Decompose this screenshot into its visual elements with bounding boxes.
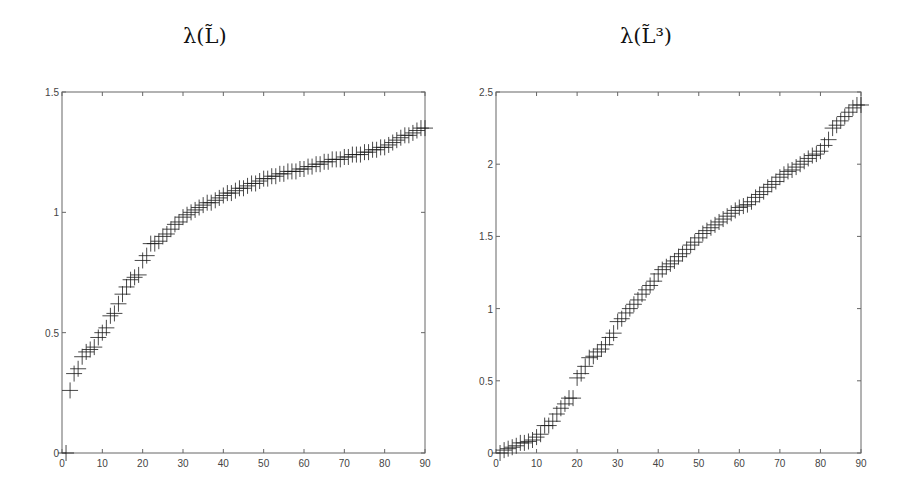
x-tick-label: 0 [59,458,65,469]
x-tick-label: 50 [693,458,705,469]
x-tick-label: 30 [177,458,189,469]
data-series-markers [492,97,869,461]
x-tick-label: 60 [298,458,310,469]
x-tick-label: 80 [815,458,827,469]
y-tick-label: 0.5 [45,328,59,339]
x-tick-label: 40 [218,458,230,469]
y-tick-label: 1 [53,207,59,218]
y-tick-label: 2 [487,159,493,170]
chart-right-plot: 010203040506070809000.511.522.5 [479,87,869,469]
chart-left-plot: 010203040506070809000.511.5 [45,87,433,469]
x-tick-label: 30 [612,458,624,469]
y-tick-label: 0 [53,448,59,459]
x-tick-label: 20 [572,458,584,469]
axes-box [62,92,425,453]
plot-canvas: 010203040506070809000.511.50102030405060… [0,0,908,498]
y-tick-label: 1 [487,304,493,315]
y-tick-label: 1.5 [45,87,59,98]
y-tick-label: 1.5 [479,231,493,242]
x-tick-label: 10 [531,458,543,469]
y-tick-label: 2.5 [479,87,493,98]
x-tick-label: 90 [855,458,867,469]
x-tick-label: 20 [137,458,149,469]
x-tick-label: 10 [97,458,109,469]
x-tick-label: 90 [419,458,431,469]
y-tick-label: 0 [487,448,493,459]
y-tick-label: 0.5 [479,376,493,387]
x-tick-label: 0 [493,458,499,469]
x-tick-label: 70 [774,458,786,469]
x-tick-label: 60 [734,458,746,469]
x-tick-label: 80 [379,458,391,469]
x-tick-label: 40 [653,458,665,469]
axes-box [496,92,861,453]
x-tick-label: 70 [339,458,351,469]
x-tick-label: 50 [258,458,270,469]
data-series-markers [58,120,433,461]
